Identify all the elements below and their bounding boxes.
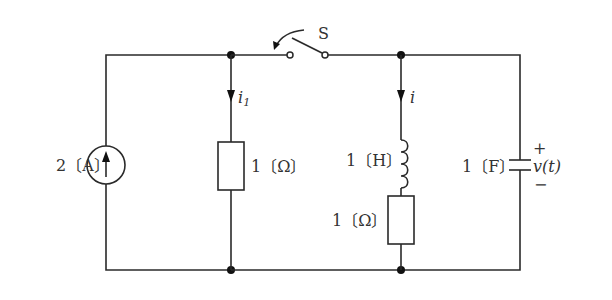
resistor-2-label: 1〔Ω〕: [332, 211, 387, 230]
switch-action-arrow-icon: [276, 30, 304, 46]
switch-terminal-right: [322, 52, 328, 58]
current-arrow-i-icon: [397, 90, 405, 102]
circuit-diagram: 2〔A〕 i1 1〔Ω〕 S i 1〔H〕 1〔Ω〕: [0, 0, 612, 300]
capacitor-label: 1〔F〕: [462, 157, 515, 176]
voltage-plus-sign: +: [533, 139, 546, 158]
voltage-label: v(t): [533, 157, 561, 176]
resistor-2: [388, 196, 414, 244]
resistor-1: [218, 142, 244, 190]
switch-terminal-left: [287, 52, 293, 58]
current-arrow-i1-icon: [227, 90, 235, 102]
current-label-i: i: [410, 88, 415, 107]
voltage-minus-sign: −: [534, 175, 547, 194]
inductor-label: 1〔H〕: [346, 151, 402, 170]
current-label-i1: i1: [238, 88, 250, 109]
resistor-1-label: 1〔Ω〕: [251, 157, 306, 176]
current-source-label: 2〔A〕: [56, 156, 110, 175]
switch-label: S: [318, 24, 329, 43]
